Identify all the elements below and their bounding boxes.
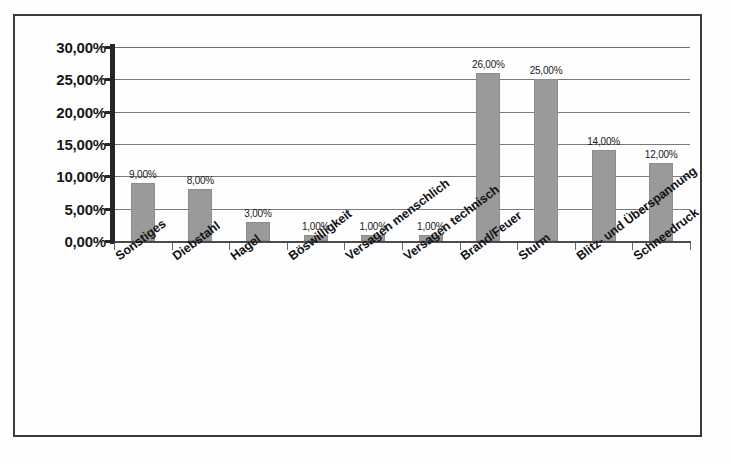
x-axis-tick-mark (402, 243, 403, 250)
x-axis-tick-mark (172, 243, 173, 250)
bar-value-label: 1,00% (417, 221, 444, 232)
bar-value-label: 26,00% (472, 59, 505, 70)
y-axis-tick-mark (105, 111, 115, 114)
bar-value-label: 25,00% (530, 65, 563, 76)
x-axis-category-label: Diebstahl (170, 219, 223, 264)
x-axis-tick-mark (517, 243, 518, 250)
bar-value-label: 14,00% (587, 136, 620, 147)
bar-value-label: 1,00% (302, 221, 329, 232)
x-axis-tick-mark (575, 243, 576, 250)
x-axis-category-label: Hagel (228, 232, 263, 263)
x-axis-category-label: Sonstiges (113, 217, 168, 264)
x-axis-tick-mark (690, 243, 691, 250)
bar-value-label: 1,00% (360, 221, 387, 232)
x-axis-tick-mark (460, 243, 461, 250)
bar-value-label: 8,00% (187, 175, 214, 186)
x-axis-tick-mark (287, 243, 288, 250)
chart-figure: 0,00%5,00%10,00%15,00%20,00%25,00%30,00%… (0, 0, 731, 463)
x-axis-tick-mark (229, 243, 230, 250)
x-axis-tick-mark (114, 243, 115, 250)
y-axis-tick-mark (105, 78, 115, 81)
y-axis-tick-mark (105, 46, 115, 49)
x-axis-category-label: Versagen technisch (401, 182, 502, 263)
x-axis-category-label: Böswilligkeit (286, 207, 354, 263)
y-axis-tick-mark (105, 175, 115, 178)
bar-value-label: 9,00% (129, 169, 156, 180)
y-axis-tick-mark (105, 143, 115, 146)
bar-value-label: 3,00% (244, 208, 271, 219)
bar-value-label: 12,00% (645, 149, 678, 160)
x-axis-category-label: Sturm (516, 231, 553, 264)
y-axis-tick-mark (105, 208, 115, 211)
x-axis-tick-mark (344, 243, 345, 250)
x-axis-tick-mark (632, 243, 633, 250)
